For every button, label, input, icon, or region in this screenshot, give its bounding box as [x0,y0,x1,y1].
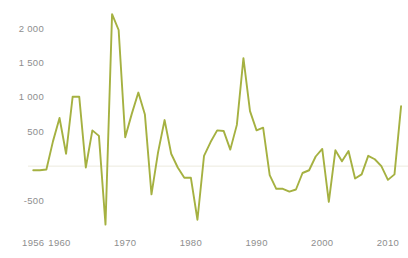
x-tick-label: 1990 [237,237,277,248]
y-tick-label: 2 000 [2,23,44,34]
x-tick-label: 2010 [368,237,408,248]
data-series-line [33,14,401,224]
line-chart: 2 0001 5001 000500-500 19561960197019801… [0,0,408,258]
x-tick-label: 2000 [302,237,342,248]
x-tick-label: 1960 [40,237,80,248]
y-tick-label: 500 [2,126,44,137]
y-tick-label: 1 500 [2,57,44,68]
x-tick-label: 1970 [105,237,145,248]
y-tick-label: 1 000 [2,91,44,102]
x-tick-label: 1980 [171,237,211,248]
y-tick-label: -500 [2,195,44,206]
plot-area [0,0,408,258]
chart-canvas [0,0,408,258]
